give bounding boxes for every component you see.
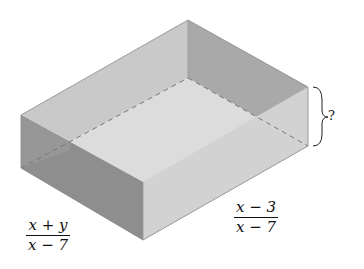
height-brace	[313, 87, 328, 146]
length-label: x + y x − 7	[26, 217, 70, 254]
height-label: ?	[328, 108, 335, 123]
width-denominator: x − 7	[234, 219, 278, 236]
length-denominator: x − 7	[26, 237, 70, 254]
length-numerator: x + y	[26, 217, 70, 234]
width-label: x − 3 x − 7	[234, 199, 278, 236]
width-numerator: x − 3	[234, 199, 278, 216]
